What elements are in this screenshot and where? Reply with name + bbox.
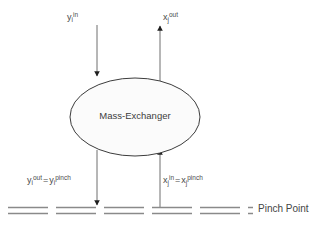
symbol-superscript: in — [73, 11, 78, 18]
pinch-point-label: Pinch Point — [258, 204, 309, 214]
diagram-canvas: Mass-Exchanger yiin xjout yiout=yipinch … — [0, 0, 315, 227]
symbol-superscript: out — [33, 174, 42, 181]
stream-label-rich-in: yiin — [67, 12, 78, 23]
symbol-superscript-2: pinch — [187, 174, 203, 181]
stream-label-rich-out: yiout=yipinch — [27, 175, 71, 186]
stream-label-lean-out: xjout — [163, 12, 178, 23]
symbol-superscript-2: pinch — [55, 174, 71, 181]
stream-label-lean-in: xjin=xjpinch — [163, 175, 203, 186]
symbol-superscript: out — [169, 11, 178, 18]
mass-exchanger-label: Mass-Exchanger — [70, 110, 200, 121]
